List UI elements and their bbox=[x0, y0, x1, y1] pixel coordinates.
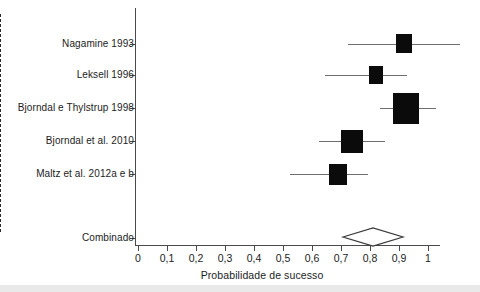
x-tick-mark-4 bbox=[254, 246, 255, 251]
x-tick-label-9: 0,9 bbox=[392, 252, 407, 264]
x-tick-label-8: 0,8 bbox=[363, 252, 378, 264]
x-tick-label-1: 0,1 bbox=[160, 252, 175, 264]
x-tick-mark-5 bbox=[283, 246, 284, 251]
x-tick-mark-3 bbox=[225, 246, 226, 251]
x-tick-mark-0 bbox=[138, 246, 139, 251]
x-tick-mark-8 bbox=[370, 246, 371, 251]
x-tick-label-4: 0,4 bbox=[247, 252, 262, 264]
point-marker-bjorndal-2010 bbox=[341, 130, 363, 153]
study-label-leksell-1996: Leksell 1996 bbox=[77, 69, 134, 80]
x-axis-title: Probabilidade de sucesso bbox=[0, 269, 480, 281]
study-label-bjorndal-thylstrup-1998: Bjorndal e Thylstrup 1998 bbox=[18, 102, 134, 113]
x-tick-mark-9 bbox=[399, 246, 400, 251]
study-label-maltz-2012: Maltz et al. 2012a e b bbox=[36, 168, 134, 179]
x-tick-label-6: 0,6 bbox=[305, 252, 320, 264]
x-tick-label-2: 0,2 bbox=[189, 252, 204, 264]
study-label-bjorndal-2010: Bjorndal et al. 2010 bbox=[46, 135, 134, 146]
x-axis-title-text: Probabilidade de sucesso bbox=[201, 269, 324, 281]
x-tick-mark-6 bbox=[312, 246, 313, 251]
y-axis-line bbox=[135, 8, 136, 245]
study-label-nagamine-1993: Nagamine 1993 bbox=[62, 38, 134, 49]
reference-line bbox=[0, 14, 1, 232]
summary-diamond-combinado bbox=[343, 227, 403, 247]
ci-line-leksell-1996 bbox=[325, 75, 407, 76]
point-marker-bjorndal-thylstrup-1998 bbox=[393, 93, 419, 124]
point-marker-maltz-2012 bbox=[329, 164, 347, 185]
x-tick-mark-7 bbox=[341, 246, 342, 251]
x-tick-mark-1 bbox=[167, 246, 168, 251]
x-tick-label-3: 0,3 bbox=[218, 252, 233, 264]
point-marker-leksell-1996 bbox=[369, 66, 383, 84]
page-edge-strip bbox=[0, 285, 480, 292]
x-tick-mark-10 bbox=[428, 246, 429, 251]
plot-area: Nagamine 1993 Leksell 1996 Bjorndal e Th… bbox=[0, 0, 480, 292]
x-tick-label-0: 0 bbox=[135, 252, 141, 264]
study-label-combinado: Combinado bbox=[82, 232, 134, 243]
x-tick-label-7: 0,7 bbox=[334, 252, 349, 264]
x-tick-mark-2 bbox=[196, 246, 197, 251]
forest-plot-figure: Nagamine 1993 Leksell 1996 Bjorndal e Th… bbox=[0, 0, 480, 292]
point-marker-nagamine-1993 bbox=[396, 34, 412, 53]
x-tick-label-5: 0,5 bbox=[276, 252, 291, 264]
x-tick-label-10: 1 bbox=[425, 252, 431, 264]
